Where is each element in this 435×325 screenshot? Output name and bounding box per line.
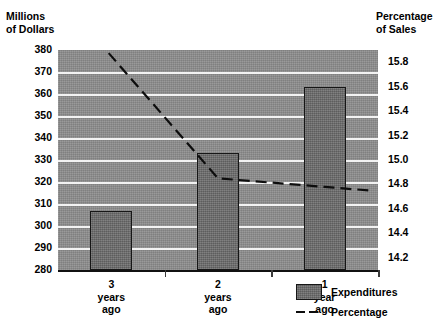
right-tick-label: 14.4 (388, 226, 408, 238)
legend-label: Expenditures (331, 286, 398, 298)
right-tick-label: 15.0 (388, 153, 408, 165)
left-tick-label: 380 (4, 43, 52, 55)
left-axis-title: Millions of Dollars (6, 10, 54, 35)
legend-item-percentage: Percentage (296, 302, 431, 322)
legend-item-expenditures: Expenditures (296, 282, 431, 302)
right-tick-label: 15.2 (388, 129, 408, 141)
x-axis-line (58, 270, 378, 272)
line-series-percentage (58, 50, 378, 270)
legend-label: Percentage (331, 306, 388, 318)
left-tick-label: 330 (4, 153, 52, 165)
expenditures-percentage-chart: Millions of Dollars Percentage of Sales … (0, 0, 435, 325)
left-tick-label: 360 (4, 87, 52, 99)
legend-dashed-line-icon (296, 304, 322, 320)
left-tick-label: 310 (4, 197, 52, 209)
right-tick-label: 15.4 (388, 104, 408, 116)
legend-swatch-icon (296, 284, 322, 300)
right-tick-label: 15.8 (388, 55, 408, 67)
x-axis-tick (271, 270, 273, 277)
plot-area (58, 50, 378, 270)
right-tick-label: 14.8 (388, 177, 408, 189)
left-tick-label: 280 (4, 263, 52, 275)
right-tick-label: 14.2 (388, 251, 408, 263)
category-label: 2 years ago (178, 278, 258, 316)
right-tick-label: 15.6 (388, 80, 408, 92)
x-axis-tick (165, 270, 167, 277)
x-axis-tick (378, 270, 380, 277)
left-tick-label: 370 (4, 65, 52, 77)
left-tick-label: 350 (4, 109, 52, 121)
right-axis-title: Percentage of Sales (376, 10, 433, 35)
category-label: 3 years ago (71, 278, 151, 316)
right-tick-label: 14.6 (388, 202, 408, 214)
left-tick-label: 340 (4, 131, 52, 143)
left-tick-label: 320 (4, 175, 52, 187)
left-tick-label: 290 (4, 241, 52, 253)
chart-legend: Expenditures Percentage (296, 282, 431, 322)
left-tick-label: 300 (4, 219, 52, 231)
